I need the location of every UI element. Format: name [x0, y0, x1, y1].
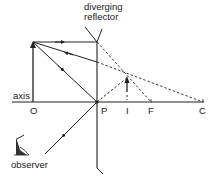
object-arrow — [30, 41, 36, 102]
label-C: C — [199, 105, 206, 116]
label-axis: axis — [13, 90, 30, 101]
virtual-rays — [97, 42, 203, 102]
eye-icon — [14, 135, 29, 155]
ray-diagram: diverging reflector axis O P I F C obser… — [0, 0, 217, 181]
label-P: P — [101, 105, 107, 116]
label-I: I — [126, 105, 129, 116]
label-O: O — [30, 105, 37, 116]
label-F: F — [148, 105, 154, 116]
convex-mirror — [85, 27, 103, 174]
pole-point — [95, 100, 98, 103]
title-line-2: reflector — [84, 11, 118, 22]
solid-rays — [33, 42, 97, 154]
label-observer: observer — [11, 159, 48, 170]
